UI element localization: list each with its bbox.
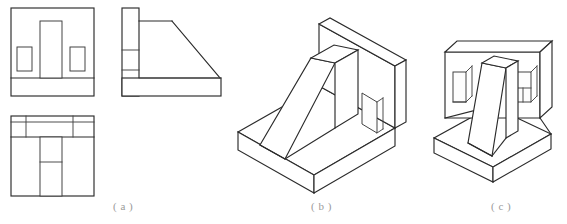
engineering-drawing-figure: ( a ) ( b ) ( c ) [0,0,567,224]
front-view-left-pocket [17,47,32,71]
iso-c-rib-right-face [506,61,518,138]
front-view-rib-rect [40,21,62,78]
caption-a: ( a ) [113,200,133,212]
top-view-group [11,116,94,196]
iso-b-rib-right-face [335,50,358,128]
iso-c-wall-right-face [540,41,552,118]
isometric-view-c-svg [415,0,567,200]
isometric-view-b-panel [225,0,405,200]
front-view-right-pocket [70,47,85,71]
iso-c-wall-top-face [445,41,552,52]
iso-c-left-pocket-opening [453,72,466,102]
top-view-rib-strip [40,137,62,196]
caption-b: ( b ) [311,200,332,212]
orthographic-views-svg [0,0,240,200]
isometric-view-c-panel [415,0,567,200]
front-view-group [11,8,94,96]
side-view-group [122,8,221,96]
orthographic-views-panel [0,0,240,200]
iso-b-wall-side-face [395,60,406,128]
isometric-view-b-svg [225,0,405,200]
caption-c: ( c ) [491,200,511,212]
side-view-base-slab [122,78,221,96]
side-view-rib-incline [172,21,220,78]
